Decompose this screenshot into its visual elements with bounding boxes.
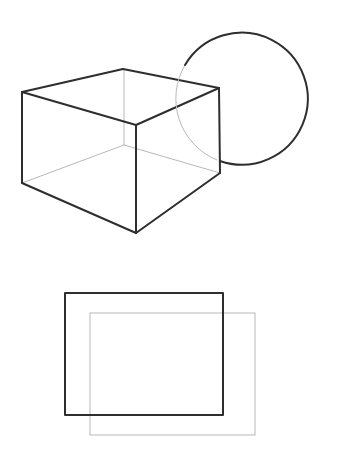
overlapping-rectangles <box>65 293 255 435</box>
cube-edge <box>22 183 136 233</box>
circle-hidden-arc <box>176 65 217 160</box>
cube-edge <box>22 92 136 125</box>
cube-edge <box>123 69 219 88</box>
back-rectangle <box>90 313 255 435</box>
diagram-canvas <box>0 0 337 450</box>
cube-edge <box>136 173 220 233</box>
cube-hidden-edge <box>124 145 220 173</box>
circle-visible-arc <box>185 33 308 165</box>
cube-edge <box>22 69 123 92</box>
cube <box>22 69 220 233</box>
front-rectangle <box>65 293 223 415</box>
cube-hidden-edge <box>22 145 124 183</box>
cube-edge <box>136 88 219 125</box>
cube-visible-edges <box>22 69 220 233</box>
